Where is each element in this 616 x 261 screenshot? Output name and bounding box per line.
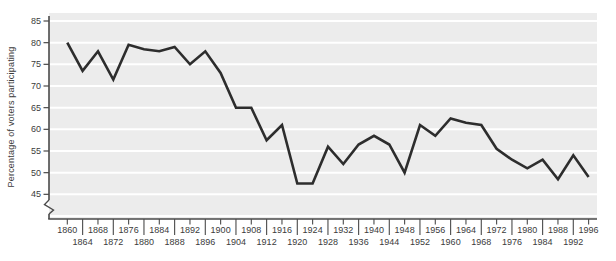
x-tick-label: 1916 [272,225,292,235]
x-tick-label: 1904 [226,237,246,247]
y-tick-label: 85 [31,16,41,26]
voter-turnout-figure: 4550556065707580851860186418681872187618… [0,0,616,261]
x-tick-label: 1972 [487,225,507,235]
y-tick-label: 50 [31,168,41,178]
x-tick-label: 1928 [318,237,338,247]
x-tick-label: 1868 [88,225,108,235]
y-tick-label: 80 [31,38,41,48]
x-tick-label: 1964 [456,225,476,235]
x-tick-label: 1892 [180,225,200,235]
x-tick-label: 1944 [379,237,399,247]
x-tick-label: 1960 [441,237,461,247]
x-tick-label: 1912 [257,237,277,247]
x-tick-label: 1908 [241,225,261,235]
x-tick-label: 1956 [425,225,445,235]
turnout-line-chart: 4550556065707580851860186418681872187618… [0,0,616,261]
x-tick-label: 1872 [103,237,123,247]
x-tick-label: 1984 [533,237,553,247]
y-tick-label: 60 [31,124,41,134]
x-tick-label: 1900 [211,225,231,235]
x-tick-label: 1992 [563,237,583,247]
x-tick-label: 1948 [395,225,415,235]
x-tick-label: 1888 [165,237,185,247]
plot-background [49,13,597,219]
y-tick-label: 55 [31,146,41,156]
x-tick-label: 1896 [195,237,215,247]
x-tick-label: 1980 [517,225,537,235]
x-tick-label: 1996 [579,225,599,235]
x-tick-label: 1860 [57,225,77,235]
y-tick-label: 70 [31,81,41,91]
x-tick-label: 1924 [303,225,323,235]
x-tick-label: 1880 [134,237,154,247]
x-tick-label: 1864 [73,237,93,247]
x-tick-label: 1876 [119,225,139,235]
plot-area [49,13,597,219]
y-tick-label: 75 [31,59,41,69]
x-tick-label: 1920 [287,237,307,247]
x-tick-label: 1988 [548,225,568,235]
x-tick-label: 1976 [502,237,522,247]
y-tick-label: 65 [31,103,41,113]
x-tick-label: 1884 [149,225,169,235]
x-tick-label: 1936 [349,237,369,247]
y-axis-title: Percentage of voters participating [6,47,16,188]
x-tick-label: 1932 [333,225,353,235]
y-tick-label: 45 [31,189,41,199]
x-tick-label: 1952 [410,237,430,247]
x-tick-label: 1940 [364,225,384,235]
x-tick-label: 1968 [471,237,491,247]
